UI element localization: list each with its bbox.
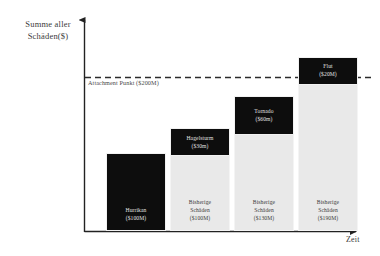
bar-segment-new-event: Hurrikan ($100M) xyxy=(106,153,166,231)
bar-segment-new-event-label: Hurrikan ($100M) xyxy=(107,206,165,222)
bar-group-hagelsturm: Hagelsturm ($30m) Bisherige Schäden ($10… xyxy=(170,128,230,231)
bar-group-hurrikan: Hurrikan ($100M) xyxy=(106,153,166,231)
y-axis-label: Summe aller Schäden($) xyxy=(12,18,84,42)
bar-segment-prior-damages: Bisherige Schäden ($130M) xyxy=(234,135,294,231)
x-axis-label: Zeit xyxy=(346,235,360,244)
bar-segment-new-event: Hagelsturm ($30m) xyxy=(170,128,230,156)
bar-segment-prior-damages-label: Bisherige Schäden ($190M) xyxy=(299,198,357,222)
bar-segment-new-event: Tornado ($60m) xyxy=(234,96,294,135)
bar-segment-new-event: Flut ($20M) xyxy=(298,57,358,85)
attachment-point-label: Attachment Punkt ($200M) xyxy=(88,79,159,86)
bar-segment-prior-damages-label: Bisherige Schäden ($130M) xyxy=(235,198,293,222)
bar-segment-new-event-label: Tornado ($60m) xyxy=(235,107,293,123)
bar-segment-new-event-label: Flut ($20M) xyxy=(299,62,357,78)
bar-segment-prior-damages-label: Bisherige Schäden ($100M) xyxy=(171,198,229,222)
bar-segment-prior-damages: Bisherige Schäden ($190M) xyxy=(298,85,358,231)
bar-group-flut: Flut ($20M) Bisherige Schäden ($190M) xyxy=(298,57,358,231)
bar-group-tornado: Tornado ($60m) Bisherige Schäden ($130M) xyxy=(234,96,294,231)
bar-segment-prior-damages: Bisherige Schäden ($100M) xyxy=(170,156,230,231)
bar-segment-new-event-label: Hagelsturm ($30m) xyxy=(171,134,229,150)
